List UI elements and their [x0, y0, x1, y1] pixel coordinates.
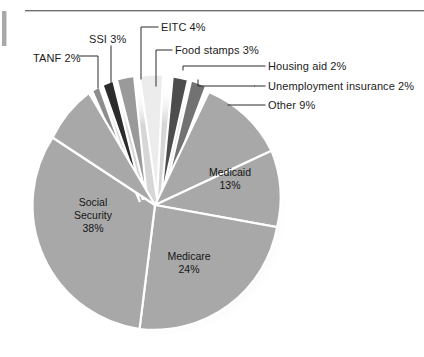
pie-label-medicaid: Medicaid 13%: [200, 166, 260, 192]
chart-page: TANF 2% SSI 3% EITC 4% Food stamps 3% Ho…: [0, 0, 424, 357]
pie-label-social-security-line2: Security: [62, 209, 124, 222]
pie-label-social-security-line1: Social: [62, 196, 124, 209]
pie-label-other: Other 9%: [268, 99, 315, 111]
leader-line-eitc: [141, 27, 158, 79]
pie-label-tanf: TANF 2%: [33, 52, 81, 64]
pie-label-medicaid-name: Medicaid: [200, 166, 260, 179]
pie-label-ssi: SSI 3%: [89, 33, 126, 45]
pie-label-medicaid-percent: 13%: [200, 179, 260, 192]
pie-label-social-security-percent: 38%: [62, 222, 124, 235]
pie-label-medicare-name: Medicare: [157, 250, 221, 263]
pie-label-housing-aid: Housing aid 2%: [268, 60, 346, 72]
pie-label-food-stamps: Food stamps 3%: [175, 44, 259, 56]
leader-line-tanf: [78, 56, 98, 88]
pie-label-eitc: EITC 4%: [161, 21, 206, 33]
leader-line-housing-aid: [183, 66, 265, 70]
pie-label-medicare-percent: 24%: [157, 263, 221, 276]
pie-label-social-security: Social Security 38%: [62, 196, 124, 235]
pie-label-unemployment-insurance: Unemployment insurance 2%: [268, 80, 414, 92]
pie-label-medicare: Medicare 24%: [157, 250, 221, 276]
